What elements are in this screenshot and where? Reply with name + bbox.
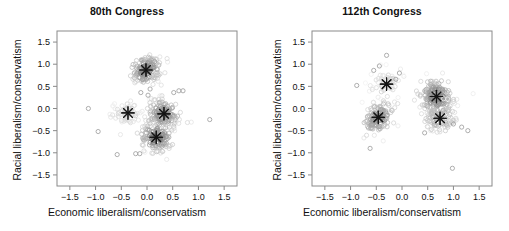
x-tick-label: −1.5 [61,192,79,202]
y-tick-label: −1.0 [287,148,305,158]
y-tick-label: −0.5 [287,126,305,136]
y-tick-label: 1.5 [37,37,50,47]
y-tick-label: 1.0 [37,59,50,69]
x-tick-label: 1.5 [218,192,231,202]
scatter-plot-right: −1.5−1.0−0.50.00.51.01.5−1.5−1.0−0.50.00… [255,0,509,231]
panel-80th-congress: 80th Congress −1.5−1.0−0.50.00.51.01.5−1… [0,0,254,231]
x-tick-label: 1.0 [192,192,205,202]
y-tick-label: 1.0 [292,59,305,69]
y-tick-label: −1.5 [287,170,305,180]
x-tick-label: 0.5 [421,192,434,202]
y-tick-label: 0.0 [292,104,305,114]
x-tick-label: −1.5 [316,192,334,202]
scatter-plot-left: −1.5−1.0−0.50.00.51.01.5−1.5−1.0−0.50.00… [0,0,254,231]
x-tick-label: −1.0 [342,192,360,202]
x-tick-label: 1.0 [447,192,460,202]
y-tick-label: 0.0 [37,104,50,114]
x-tick-label: 1.5 [473,192,486,202]
x-tick-label: 0.5 [166,192,179,202]
y-tick-label: −1.5 [32,170,50,180]
x-tick-label: −0.5 [367,192,385,202]
y-tick-label: 0.5 [37,82,50,92]
y-axis-title: Racial liberalism/conservatism [11,30,23,190]
y-axis-title: Racial liberalism/conservatism [271,30,283,190]
y-tick-label: −1.0 [32,148,50,158]
y-tick-label: 0.5 [292,82,305,92]
x-tick-label: 0.0 [141,192,154,202]
x-tick-label: 0.0 [396,192,409,202]
x-axis-title: Economic liberalism/conservatism [0,206,254,218]
x-axis-title: Economic liberalism/conservatism [255,206,509,218]
x-tick-label: −1.0 [87,192,105,202]
y-tick-label: −0.5 [32,126,50,136]
figure-root: 80th Congress −1.5−1.0−0.50.00.51.01.5−1… [0,0,509,231]
x-tick-label: −0.5 [112,192,130,202]
panel-112th-congress: 112th Congress −1.5−1.0−0.50.00.51.01.5−… [255,0,509,231]
y-tick-label: 1.5 [292,37,305,47]
